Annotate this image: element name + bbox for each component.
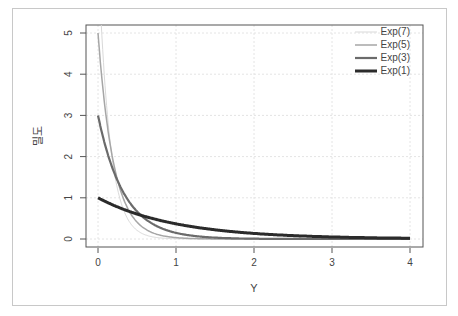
legend-item: Exp(7) — [381, 26, 410, 37]
legend-item: Exp(1) — [381, 65, 410, 76]
y-axis-label: 밀도 — [32, 126, 44, 146]
x-axis: 01234 — [95, 248, 413, 268]
y-tick-label: 4 — [63, 71, 74, 77]
curves — [98, 0, 410, 239]
y-tick-label: 3 — [63, 112, 74, 118]
y-tick-label: 0 — [63, 236, 74, 242]
x-tick-label: 0 — [95, 257, 101, 268]
y-tick-label: 2 — [63, 153, 74, 159]
y-axis: 012345 — [63, 30, 86, 242]
curve-exp5 — [98, 33, 410, 239]
curve-exp7 — [98, 0, 410, 239]
y-tick-label: 5 — [63, 30, 74, 36]
legend-item: Exp(3) — [381, 52, 410, 63]
x-axis-label: Y — [250, 282, 258, 294]
density-chart: 01234 012345 Y 밀도 Exp(7)Exp(5)Exp(3)Exp(… — [0, 0, 458, 316]
y-tick-label: 1 — [63, 195, 74, 201]
x-tick-label: 3 — [329, 257, 335, 268]
x-tick-label: 4 — [407, 257, 413, 268]
x-tick-label: 1 — [173, 257, 179, 268]
x-tick-label: 2 — [251, 257, 257, 268]
legend-item: Exp(5) — [381, 39, 410, 50]
